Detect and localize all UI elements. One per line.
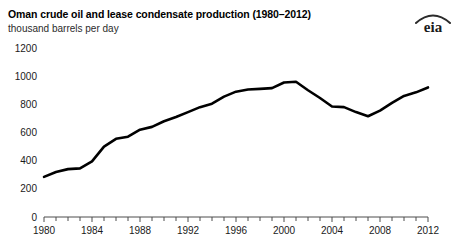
y-axis: 020040060080010001200 [15,43,38,223]
y-tick-label: 800 [20,99,37,110]
x-axis: 198019841988199219962000200420082012 [33,217,440,236]
y-tick-label: 1200 [15,43,38,54]
x-tick-label: 2008 [369,225,392,236]
x-tick-label: 1992 [177,225,200,236]
y-tick-label: 0 [31,212,37,223]
y-tick-label: 1000 [15,71,38,82]
x-tick-label: 1988 [129,225,152,236]
production-line [44,82,428,177]
y-tick-label: 400 [20,155,37,166]
x-tick-label: 1996 [225,225,248,236]
chart-figure: Oman crude oil and lease condensate prod… [0,0,466,252]
x-tick-label: 1984 [81,225,104,236]
plot-area: 020040060080010001200 198019841988199219… [0,0,466,252]
x-tick-label: 2012 [417,225,440,236]
y-tick-label: 200 [20,183,37,194]
x-tick-label: 1980 [33,225,56,236]
x-tick-label: 2004 [321,225,344,236]
x-tick-label: 2000 [273,225,296,236]
y-tick-label: 600 [20,127,37,138]
